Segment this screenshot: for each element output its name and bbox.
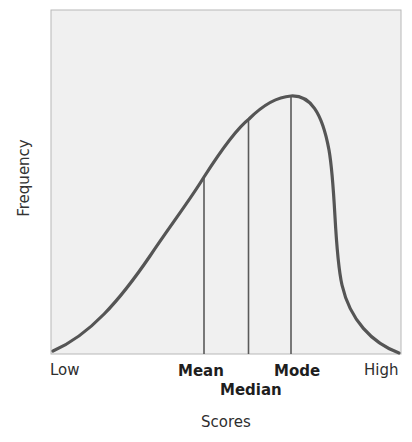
x-tick-high: High xyxy=(364,361,398,379)
median-label: Median xyxy=(220,381,282,399)
x-axis-label: Scores xyxy=(201,413,251,431)
x-tick-low: Low xyxy=(50,361,80,379)
y-axis-label: Frequency xyxy=(15,139,33,217)
mode-label: Mode xyxy=(274,362,320,380)
mean-label: Mean xyxy=(178,362,224,380)
